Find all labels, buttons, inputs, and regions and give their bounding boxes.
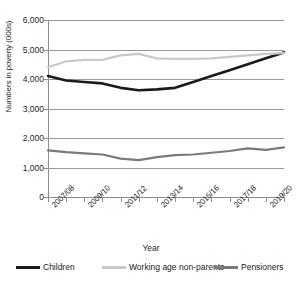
legend-swatch <box>214 266 238 269</box>
legend-item-children[interactable]: Children <box>16 262 75 272</box>
series-lines <box>48 20 284 197</box>
x-axis-title: Year <box>0 243 302 253</box>
x-axis-tick <box>48 198 49 202</box>
legend-swatch <box>16 266 40 269</box>
y-axis-tick-label: 1,000 <box>23 164 44 173</box>
x-axis-tick <box>84 198 85 202</box>
series-line <box>48 147 284 160</box>
x-axis-tick <box>157 198 158 202</box>
y-axis-tick-label: 3,000 <box>23 105 44 114</box>
legend-label: Pensioners <box>241 262 284 272</box>
legend-item-pensioners[interactable]: Pensioners <box>214 262 284 272</box>
x-axis-tick <box>230 198 231 202</box>
legend-swatch <box>102 266 126 269</box>
x-axis-tick <box>266 198 267 202</box>
y-axis-title: Numbers in poverty (000s) <box>4 0 13 137</box>
y-axis-tick-label: 2,000 <box>23 134 44 143</box>
y-axis-tick-label: 0 <box>39 193 44 202</box>
x-axis-tick <box>193 198 194 202</box>
chart-legend: ChildrenWorking age non-parentsPensioner… <box>0 262 302 278</box>
x-axis-tick <box>121 198 122 202</box>
legend-label: Working age non-parents <box>129 262 224 272</box>
legend-label: Children <box>43 262 75 272</box>
y-axis-tick-label: 4,000 <box>23 75 44 84</box>
legend-item-working-age-non-parents[interactable]: Working age non-parents <box>102 262 224 272</box>
plot-area <box>48 20 284 197</box>
poverty-line-chart: Numbers in poverty (000s) 6,0005,0004,00… <box>0 0 302 282</box>
y-axis-tick-label: 5,000 <box>23 46 44 55</box>
y-axis-tick-label: 6,000 <box>23 16 44 25</box>
